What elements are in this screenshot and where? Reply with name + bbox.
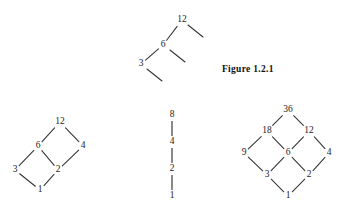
diagram-node-label: 1: [38, 184, 43, 194]
diagram-open-edge: [188, 25, 203, 37]
diagram-edge: [66, 128, 79, 142]
diagram-edge: [248, 157, 262, 171]
diagram-edge: [42, 128, 55, 142]
diagram-open-edge: [170, 50, 185, 62]
diagram-edge: [19, 150, 34, 165]
diagram-edge: [20, 174, 36, 187]
diagram-node-label: 12: [304, 125, 314, 135]
diagram-node-label: 4: [81, 140, 86, 150]
diagram-edge: [292, 179, 305, 192]
figure-caption: Figure 1.2.1: [222, 64, 274, 74]
diagram-node-label: 4: [327, 147, 332, 157]
diagram-node-label: 1: [286, 190, 291, 200]
diagram-node-label: 3: [139, 58, 144, 68]
diagram-edge: [271, 179, 284, 192]
diagram-edge: [167, 26, 178, 40]
nodes-layer: 126313264121248132964181236: [13, 14, 332, 200]
diagram-node-label: 36: [283, 104, 293, 114]
diagram-edge: [292, 157, 305, 170]
diagram-edge: [42, 151, 54, 166]
diagram-edge: [146, 49, 159, 60]
diagram-node-label: 1: [170, 190, 175, 200]
diagram-edge: [271, 157, 284, 170]
diagram-node-label: 2: [56, 164, 61, 174]
diagram-edge: [44, 174, 54, 185]
diagram-edge: [248, 137, 261, 149]
diagram-edge: [294, 116, 304, 126]
diagram-edge: [292, 137, 303, 149]
diagram-edge: [62, 150, 78, 166]
diagram-node-label: 12: [177, 14, 187, 24]
diagram-node-label: 3: [265, 169, 270, 179]
diagram-node-label: 6: [286, 147, 291, 157]
diagram-open-edge: [147, 69, 162, 81]
diagram-node-label: 18: [262, 125, 272, 135]
figure-diagram-canvas: 126313264121248132964181236: [0, 0, 342, 216]
diagram-edge: [314, 137, 325, 149]
diagram-node-label: 4: [170, 136, 175, 146]
diagram-node-label: 3: [13, 164, 18, 174]
diagram-edge: [273, 116, 283, 126]
diagram-edge: [313, 157, 325, 170]
diagram-node-label: 9: [242, 147, 247, 157]
diagram-node-label: 6: [161, 39, 166, 49]
diagram-node-label: 8: [170, 109, 175, 119]
diagram-node-label: 2: [170, 163, 175, 173]
diagram-node-label: 12: [55, 116, 65, 126]
diagram-node-label: 2: [307, 169, 312, 179]
diagram-node-label: 6: [36, 140, 41, 150]
diagram-edge: [273, 137, 284, 149]
